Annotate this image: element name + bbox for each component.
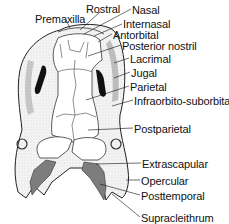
label-opercular: Opercular [141, 175, 188, 187]
label-postparietal: Postparietal [134, 123, 191, 135]
label-parietal: Parietal [130, 81, 167, 93]
label-lacrimal: Lacrimal [130, 53, 171, 65]
label-rostral: Rostral [86, 3, 120, 15]
label-jugal: Jugal [131, 67, 157, 79]
label-supracleithrum: Supracleithrum [141, 212, 214, 224]
label-premaxilla: Premaxilla [35, 13, 85, 25]
label-infraorbito-suborbital: Infraorbito-suborbital [134, 95, 229, 107]
skull-diagram: Premaxilla Rostral Nasal Internasal Anto… [0, 0, 229, 224]
label-extrascapular: Extrascapular [142, 158, 208, 170]
label-posttemporal: Posttemporal [141, 190, 205, 202]
label-posterior-nostril: Posterior nostril [122, 40, 197, 52]
label-nasal: Nasal [132, 4, 160, 16]
